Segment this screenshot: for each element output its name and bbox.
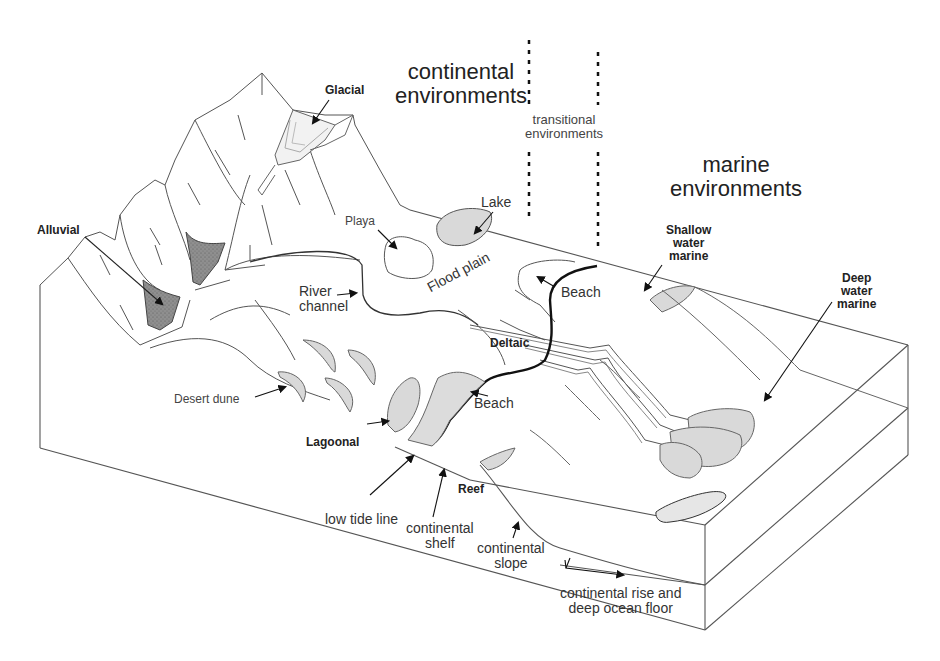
reef-shape bbox=[480, 448, 515, 470]
depositional-environments-diagram: continental environments transitional en… bbox=[0, 0, 940, 661]
label-rise-line1: continental rise and bbox=[560, 586, 681, 601]
desert-dunes bbox=[278, 340, 375, 412]
label-glacial: Glacial bbox=[325, 84, 364, 97]
label-reef: Reef bbox=[458, 483, 484, 496]
zone-continental-line1: continental bbox=[395, 60, 527, 84]
label-shallow-line3: marine bbox=[666, 250, 711, 263]
lake-shape bbox=[437, 208, 492, 245]
label-deep-line3: marine bbox=[837, 298, 876, 311]
zone-dividers bbox=[529, 40, 598, 250]
label-shelf-line1: continental bbox=[406, 521, 474, 536]
label-shelf-line2: shelf bbox=[406, 536, 474, 551]
label-deltaic: Deltaic bbox=[490, 337, 529, 350]
label-river-channel-line2: channel bbox=[299, 299, 348, 314]
label-playa: Playa bbox=[345, 215, 375, 228]
label-river-channel-line1: River bbox=[299, 284, 348, 299]
label-beach-upper: Beach bbox=[561, 285, 601, 300]
glacier bbox=[258, 110, 353, 195]
zone-continental-heading: continental environments bbox=[395, 60, 527, 108]
label-alluvial: Alluvial bbox=[37, 224, 80, 237]
zone-transitional-line1: transitional bbox=[525, 113, 603, 127]
label-lake: Lake bbox=[481, 195, 511, 210]
deep-sea-fan-shape bbox=[656, 492, 726, 523]
label-shallow-water-marine: Shallow water marine bbox=[666, 224, 711, 264]
label-slope-line1: continental bbox=[477, 541, 545, 556]
label-continental-shelf: continental shelf bbox=[406, 521, 474, 552]
lagoon-shape bbox=[387, 378, 419, 432]
zone-marine-heading: marine environments bbox=[670, 153, 802, 201]
label-river-channel: River channel bbox=[299, 284, 348, 315]
label-continental-rise: continental rise and deep ocean floor bbox=[560, 586, 681, 617]
label-slope-line2: slope bbox=[477, 556, 545, 571]
zone-transitional-line2: environments bbox=[525, 127, 603, 141]
label-rise-line2: deep ocean floor bbox=[560, 601, 681, 616]
label-lagoonal: Lagoonal bbox=[306, 436, 359, 449]
zone-marine-line2: environments bbox=[670, 177, 802, 201]
label-beach-lower: Beach bbox=[474, 396, 514, 411]
label-continental-slope: continental slope bbox=[477, 541, 545, 572]
label-low-tide-line: low tide line bbox=[325, 512, 398, 527]
zone-continental-line2: environments bbox=[395, 84, 527, 108]
rise-arrow-left bbox=[565, 560, 566, 568]
zone-marine-line1: marine bbox=[670, 153, 802, 177]
alluvial-fans bbox=[85, 232, 225, 330]
delta-lobes bbox=[660, 409, 754, 478]
zone-transitional-heading: transitional environments bbox=[525, 113, 603, 142]
label-deep-water-marine: Deep water marine bbox=[837, 272, 876, 312]
label-desert-dune: Desert dune bbox=[174, 393, 239, 406]
